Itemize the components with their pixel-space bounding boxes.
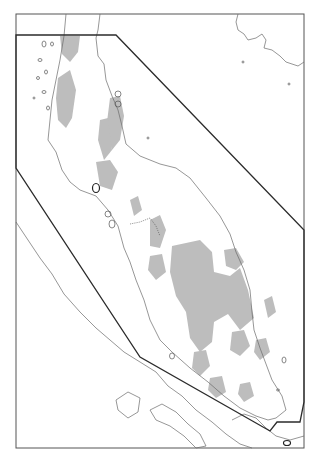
map-canvas (0, 0, 317, 466)
